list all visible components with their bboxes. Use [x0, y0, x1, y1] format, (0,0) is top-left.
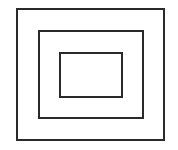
inner-rectangle	[59, 52, 123, 98]
